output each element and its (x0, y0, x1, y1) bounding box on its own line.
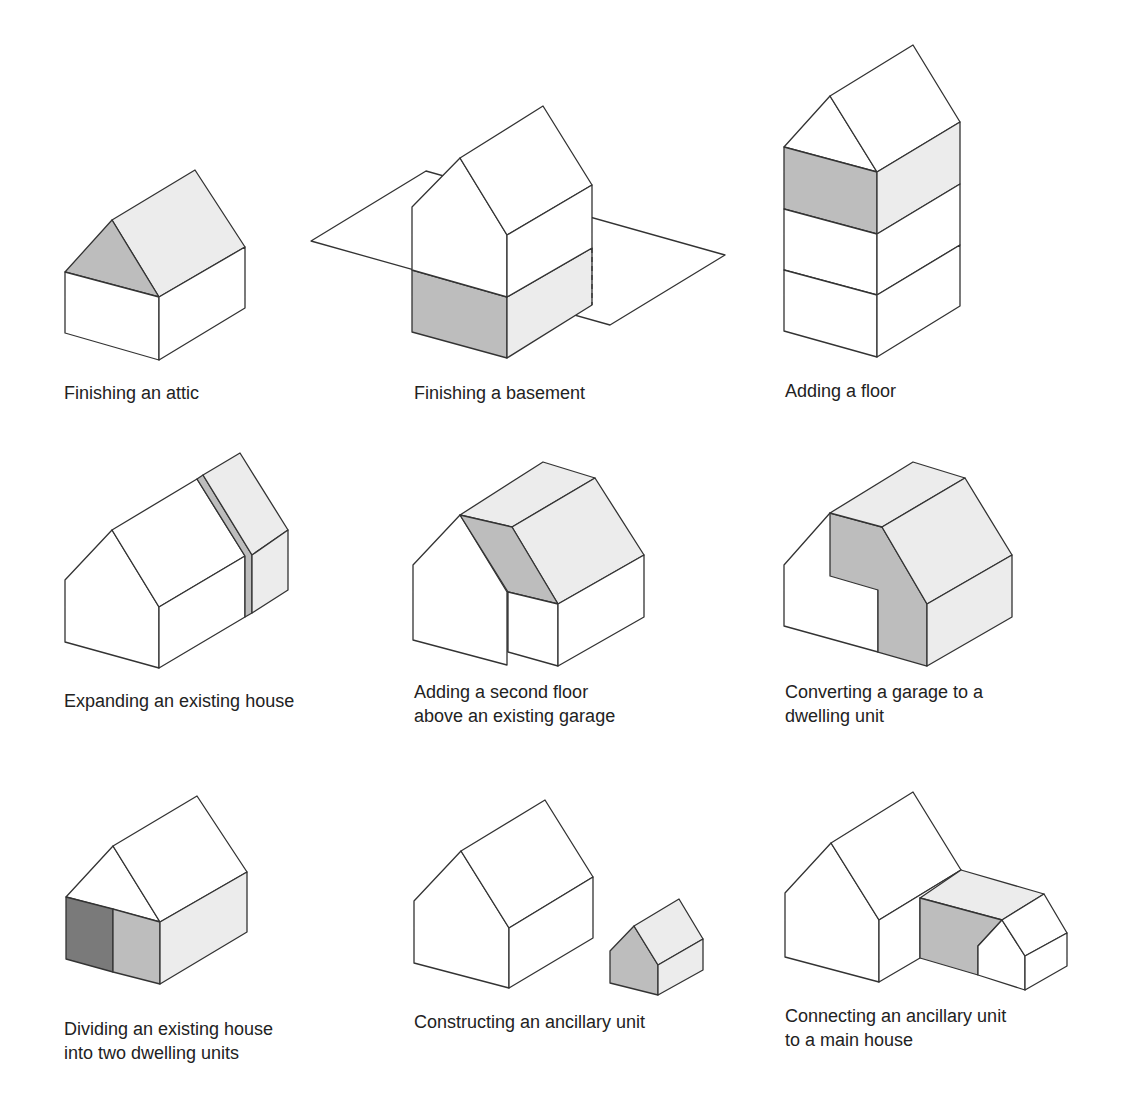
caption-garage-second-floor: Adding a second floor above an existing … (414, 680, 615, 728)
house-garage-convert-illustration (784, 462, 1012, 666)
caption-ancillary-unit: Constructing an ancillary unit (414, 1010, 645, 1034)
caption-connecting-ancillary: Connecting an ancillary unit to a main h… (785, 1004, 1006, 1052)
caption-finishing-basement: Finishing a basement (414, 381, 585, 405)
caption-finishing-attic: Finishing an attic (64, 381, 199, 405)
house-garage-second-floor-illustration (413, 462, 644, 666)
diagram-canvas (0, 0, 1131, 1098)
caption-garage-convert: Converting a garage to a dwelling unit (785, 680, 983, 728)
unit-two-front-shaded (113, 909, 160, 984)
house-add-floor-illustration (784, 45, 960, 357)
house-attic-illustration (65, 170, 245, 360)
house-expand-illustration (65, 453, 288, 668)
caption-expanding-house: Expanding an existing house (64, 689, 294, 713)
unit-one-shaded (66, 897, 113, 972)
caption-dividing-house: Dividing an existing house into two dwel… (64, 1017, 273, 1065)
house-divide-illustration (66, 796, 247, 984)
house-ancillary-illustration (414, 800, 703, 995)
house-basement-illustration (311, 106, 725, 358)
garage-front-wall (508, 592, 558, 666)
caption-adding-floor: Adding a floor (785, 379, 896, 403)
house-connect-illustration (785, 792, 1067, 990)
